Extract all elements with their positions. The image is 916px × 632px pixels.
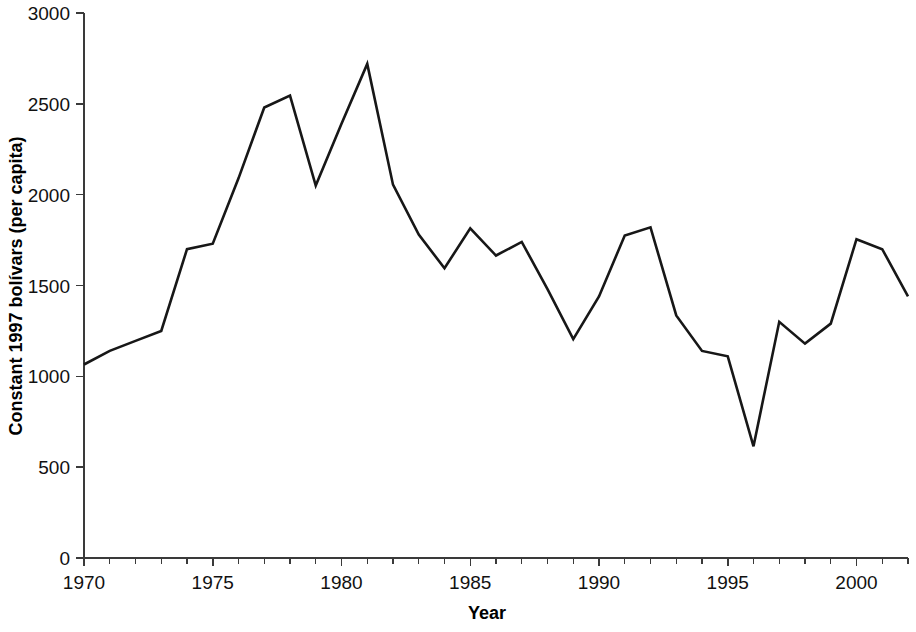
- data-series-group: [84, 64, 908, 446]
- y-tick-label-500: 500: [38, 457, 70, 478]
- y-tick-label-1500: 1500: [28, 276, 70, 297]
- x-axis-tick-labels: 1970197519801985199019952000: [63, 572, 878, 593]
- x-tick-label-1995: 1995: [707, 572, 749, 593]
- y-tick-label-2500: 2500: [28, 94, 70, 115]
- y-tick-label-1000: 1000: [28, 366, 70, 387]
- x-tick-label-1990: 1990: [578, 572, 620, 593]
- x-axis-minor-ticks: [110, 558, 908, 564]
- y-axis-tick-labels: 050010001500200025003000: [28, 3, 70, 569]
- x-axis-title: Year: [468, 603, 506, 623]
- y-tick-label-3000: 3000: [28, 3, 70, 24]
- line-chart-figure: 050010001500200025003000 197019751980198…: [0, 0, 916, 632]
- x-tick-label-1980: 1980: [320, 572, 362, 593]
- x-tick-label-1970: 1970: [63, 572, 105, 593]
- x-axis: 1970197519801985199019952000: [63, 558, 908, 593]
- y-axis: 050010001500200025003000: [28, 3, 84, 569]
- chart-canvas: 050010001500200025003000 197019751980198…: [0, 0, 916, 632]
- y-axis-title: Constant 1997 bolívars (per capita): [6, 136, 26, 435]
- x-tick-label-1985: 1985: [449, 572, 491, 593]
- x-tick-label-1975: 1975: [192, 572, 234, 593]
- y-axis-ticks: [76, 13, 84, 558]
- data-line-series-1: [84, 64, 908, 446]
- y-tick-label-0: 0: [59, 548, 70, 569]
- x-axis-major-ticks: [84, 558, 857, 566]
- chart-page: 050010001500200025003000 197019751980198…: [0, 0, 916, 632]
- y-tick-label-2000: 2000: [28, 185, 70, 206]
- x-tick-label-2000: 2000: [835, 572, 877, 593]
